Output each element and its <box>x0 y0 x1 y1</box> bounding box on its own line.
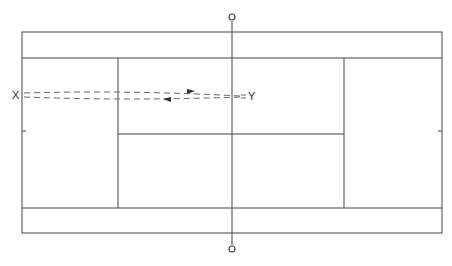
path-forward <box>24 92 240 96</box>
tennis-court-diagram <box>0 0 452 266</box>
arrow-left-icon <box>163 97 171 102</box>
arrow-right-icon <box>187 89 195 94</box>
net-post-top-icon <box>229 14 235 20</box>
net-post-bottom-icon <box>229 246 235 252</box>
path-return <box>24 97 240 99</box>
label-y: Y <box>248 91 255 102</box>
label-x: X <box>12 90 19 101</box>
